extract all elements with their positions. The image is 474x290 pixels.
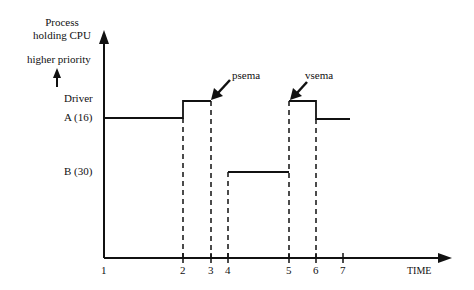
x-axis-arrowhead-icon bbox=[438, 253, 452, 263]
level-a-label: A (16) bbox=[64, 111, 92, 123]
x-tick-5: 5 bbox=[286, 264, 292, 276]
psema-label: psema bbox=[232, 69, 260, 81]
driver-a-trace-2 bbox=[289, 101, 350, 119]
x-tick-2: 2 bbox=[180, 264, 186, 276]
y-axis-title-line2: holding CPU bbox=[22, 29, 102, 41]
up-arrow-icon bbox=[53, 68, 61, 87]
level-b-label: B (30) bbox=[64, 165, 92, 177]
level-driver-label: Driver bbox=[64, 92, 93, 104]
x-tick-4: 4 bbox=[225, 264, 231, 276]
scheduling-diagram bbox=[0, 0, 474, 290]
driver-a-trace bbox=[104, 101, 211, 118]
psema-pointer-arrow-icon bbox=[211, 80, 230, 100]
priority-label: higher priority bbox=[27, 53, 91, 65]
x-tick-7: 7 bbox=[340, 264, 346, 276]
y-axis-title-line1: Process bbox=[28, 16, 96, 28]
x-tick-6: 6 bbox=[313, 264, 319, 276]
dashed-guides bbox=[183, 101, 316, 258]
x-tick-3: 3 bbox=[208, 264, 214, 276]
x-axis-label: TIME bbox=[407, 265, 431, 276]
vsema-label: vsema bbox=[305, 69, 333, 81]
vsema-pointer-arrow-icon bbox=[290, 82, 307, 100]
x-tick-1: 1 bbox=[101, 264, 107, 276]
